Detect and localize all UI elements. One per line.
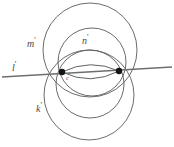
label-n-prime: n' (82, 33, 89, 46)
label-k-prime: k' (36, 101, 42, 114)
label-c-prime: c' (66, 73, 70, 82)
label-l-prime: l' (12, 60, 16, 73)
right-intersection-point (116, 68, 122, 74)
line-l (2, 67, 172, 77)
left-intersection-point (59, 69, 65, 75)
diagram-canvas: m' n' k' l' c' (0, 0, 174, 147)
label-m-prime: m' (27, 36, 36, 49)
geometry-figure (0, 0, 174, 147)
